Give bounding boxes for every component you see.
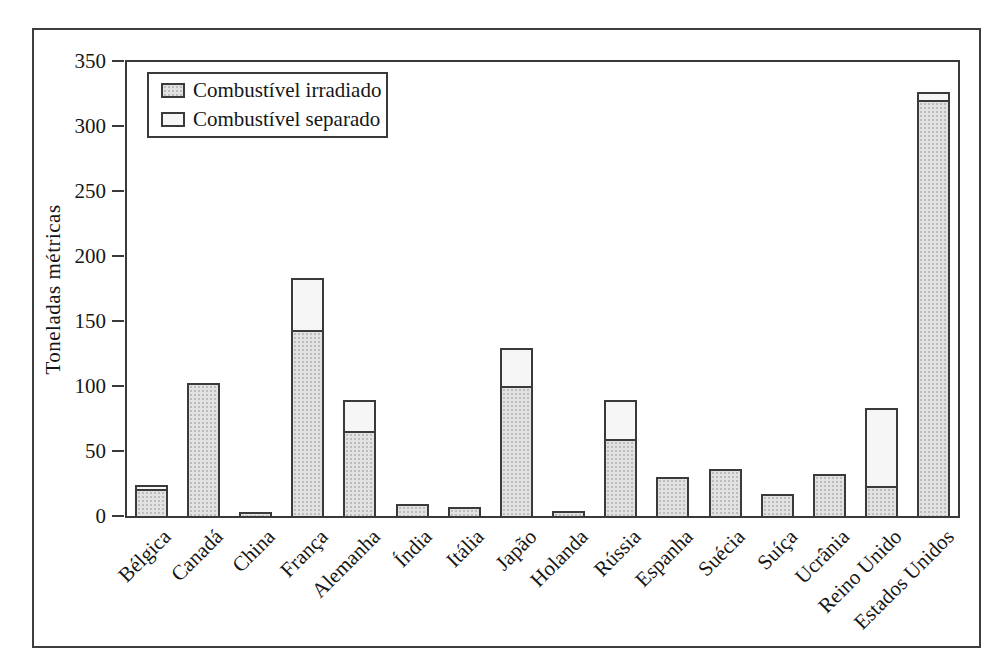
bar-irradiado-8 — [552, 511, 585, 516]
bar-irradiado-14 — [865, 486, 898, 516]
y-tick-label: 250 — [46, 179, 106, 203]
bar-separado-3 — [291, 278, 324, 330]
y-tick-label: 0 — [46, 504, 106, 528]
y-tick-mark — [112, 60, 124, 62]
legend-swatch-separado-icon — [161, 112, 185, 127]
legend-label-separado: Combustível separado — [193, 107, 380, 132]
y-tick-mark — [112, 190, 124, 192]
bar-separado-15 — [917, 92, 950, 100]
y-tick-mark — [112, 450, 124, 452]
bar-irradiado-10 — [656, 477, 689, 516]
bar-separado-4 — [343, 400, 376, 431]
y-tick-mark — [112, 255, 124, 257]
bar-irradiado-5 — [396, 504, 429, 516]
bar-irradiado-2 — [239, 512, 272, 516]
bar-irradiado-13 — [813, 474, 846, 516]
y-tick-label: 100 — [46, 374, 106, 398]
y-tick-label: 200 — [46, 244, 106, 268]
bar-irradiado-9 — [604, 439, 637, 516]
bar-irradiado-4 — [343, 431, 376, 516]
legend-swatch-irradiado-icon — [161, 83, 185, 98]
y-tick-mark — [112, 320, 124, 322]
bar-irradiado-1 — [187, 383, 220, 516]
y-tick-label: 50 — [46, 439, 106, 463]
bar-irradiado-3 — [291, 330, 324, 516]
legend: Combustível irradiado Combustível separa… — [147, 72, 388, 138]
y-tick-label: 300 — [46, 114, 106, 138]
bar-irradiado-12 — [761, 494, 794, 516]
bar-separado-9 — [604, 400, 637, 439]
bar-irradiado-11 — [709, 469, 742, 516]
y-tick-mark — [112, 125, 124, 127]
bar-irradiado-6 — [448, 507, 481, 516]
bar-irradiado-15 — [917, 100, 950, 516]
bar-separado-0 — [135, 485, 168, 489]
y-tick-mark — [112, 515, 124, 517]
bar-separado-14 — [865, 408, 898, 486]
y-tick-label: 350 — [46, 49, 106, 73]
y-tick-label: 150 — [46, 309, 106, 333]
legend-label-irradiado: Combustível irradiado — [193, 78, 381, 103]
bar-separado-7 — [500, 348, 533, 386]
y-tick-mark — [112, 385, 124, 387]
bar-irradiado-0 — [135, 489, 168, 516]
bar-irradiado-7 — [500, 386, 533, 516]
figure-canvas: Toneladas métricas 050100150200250300350… — [0, 0, 998, 671]
legend-item-separado: Combustível separado — [161, 106, 386, 133]
legend-item-irradiado: Combustível irradiado — [161, 77, 386, 104]
